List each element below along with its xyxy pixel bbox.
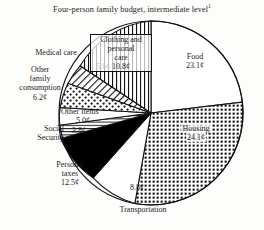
label-clothing-value: 10.8¢ bbox=[92, 62, 150, 71]
label-housing: Housing 24.1¢ bbox=[168, 124, 224, 142]
label-other-family-consumption: Other family consumption 6.2¢ bbox=[4, 65, 76, 102]
label-other-items-value: 5.0¢ bbox=[61, 116, 105, 125]
label-personal-taxes-line2: taxes bbox=[41, 169, 99, 178]
label-clothing-line3: care bbox=[92, 53, 150, 62]
label-social-security: Social Security bbox=[16, 124, 64, 142]
pie-chart-figure: Four-person family budget, intermediate … bbox=[0, 0, 264, 230]
label-food: Food 23.1¢ bbox=[170, 52, 220, 70]
label-housing-value: 24.1¢ bbox=[186, 133, 206, 142]
label-personal-taxes: Personal taxes 12.5¢ bbox=[41, 160, 99, 188]
label-clothing-personal-care: Clothing and personal care 10.8¢ bbox=[90, 34, 152, 72]
label-transportation-value: 8.8¢ bbox=[117, 183, 157, 192]
label-personal-taxes-value: 12.5¢ bbox=[41, 178, 99, 187]
label-other-family-line3: consumption bbox=[4, 83, 76, 92]
label-clothing-line2: personal bbox=[92, 44, 150, 53]
label-medical-care-name: Medical care bbox=[23, 48, 89, 57]
label-food-name: Food bbox=[187, 52, 203, 61]
label-other-items-name: Other items bbox=[61, 107, 99, 116]
label-other-family-line2: family bbox=[4, 74, 76, 83]
label-food-value: 23.1¢ bbox=[170, 61, 220, 70]
label-other-items: Other items 5.0¢ bbox=[61, 107, 121, 125]
label-clothing-line1: Clothing and bbox=[100, 35, 142, 44]
label-housing-name: Housing bbox=[181, 124, 210, 133]
label-other-family-line1: Other bbox=[31, 65, 49, 74]
label-personal-taxes-line1: Personal bbox=[56, 160, 84, 169]
label-social-security-value: 3.8¢ bbox=[66, 126, 92, 135]
label-social-security-line2: Security bbox=[16, 133, 64, 142]
label-other-family-value: 6.2¢ bbox=[4, 93, 76, 102]
label-transportation-name: Transportation bbox=[103, 205, 183, 214]
